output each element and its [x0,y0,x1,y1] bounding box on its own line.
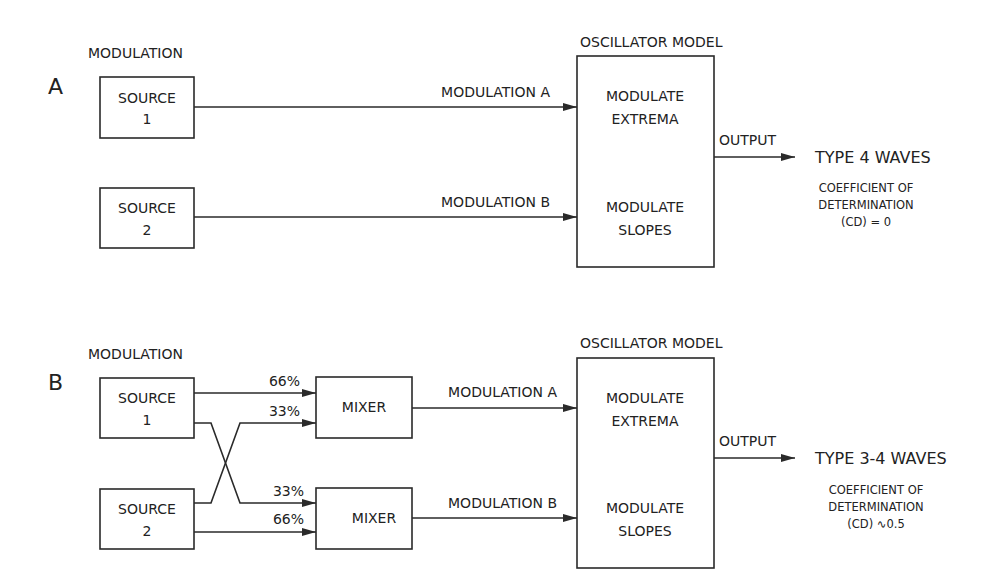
weight-mixer2-s2: 66% [273,511,304,527]
mixer-2-label: MIXER [352,510,397,526]
result-note-b-3: (CD) ∿0.5 [847,517,904,531]
source-2-number: 2 [143,222,152,238]
extrema-line2: EXTREMA [612,111,679,127]
oscillator-heading-a: OSCILLATOR MODEL [580,34,723,50]
modulation-b-label: MODULATION B [448,495,557,511]
panel-letter-b: B [48,370,63,395]
result-note-b-2: DETERMINATION [828,500,923,514]
oscillator-box-b: MODULATE EXTREMA MODULATE SLOPES [577,358,714,568]
modulation-a-label: MODULATION A [448,384,557,400]
modulation-heading-a: MODULATION [88,45,183,61]
panel-b: B MODULATION OSCILLATOR MODEL SOURCE 1 S… [48,335,947,568]
result-note-a-1: COEFFICIENT OF [819,181,914,195]
weight-mixer2-s1: 33% [273,483,304,499]
source-2-label: SOURCE [118,501,176,517]
modulation-a-label: MODULATION A [441,84,550,100]
oscillator-box-a: MODULATE EXTREMA MODULATE SLOPES [577,56,714,267]
slopes-line1: MODULATE [606,500,684,516]
result-title-a: TYPE 4 WAVES [814,148,931,167]
source-1-number: 1 [143,111,152,127]
source-1-number: 1 [143,412,152,428]
panel-letter-a: A [48,74,63,99]
slopes-line1: MODULATE [606,199,684,215]
weight-mixer1-s1: 66% [269,373,300,389]
modulation-heading-b: MODULATION [88,346,183,362]
source-2-box-a: SOURCE 2 [100,188,194,248]
result-note-a-3: (CD) = 0 [841,215,891,229]
extrema-line1: MODULATE [606,88,684,104]
source-1-label: SOURCE [118,390,176,406]
slopes-line2: SLOPES [618,222,671,238]
output-label-b: OUTPUT [719,433,777,449]
slopes-line2: SLOPES [618,523,671,539]
mixer-1-box: MIXER [316,377,412,438]
extrema-line1: MODULATE [606,390,684,406]
weight-mixer1-s2: 33% [269,403,300,419]
source-1-label: SOURCE [118,90,176,106]
result-note-a-2: DETERMINATION [818,198,913,212]
extrema-line2: EXTREMA [612,413,679,429]
result-note-b-1: COEFFICIENT OF [829,483,924,497]
source-1-box-a: SOURCE 1 [100,77,194,138]
modulation-b-label: MODULATION B [441,194,550,210]
source-2-label: SOURCE [118,200,176,216]
source-2-number: 2 [143,523,152,539]
result-title-b: TYPE 3-4 WAVES [814,449,947,468]
panel-a: A MODULATION OSCILLATOR MODEL SOURCE 1 S… [48,34,931,267]
oscillator-model-diagram: A MODULATION OSCILLATOR MODEL SOURCE 1 S… [0,0,992,579]
source-2-box-b: SOURCE 2 [100,489,194,549]
mixer-2-box: MIXER [316,488,412,549]
source-1-box-b: SOURCE 1 [100,378,194,438]
output-label-a: OUTPUT [719,132,777,148]
oscillator-heading-b: OSCILLATOR MODEL [580,335,723,351]
mixer-1-label: MIXER [342,399,387,415]
